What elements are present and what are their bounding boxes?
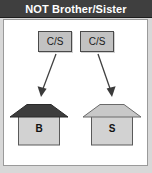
house-right-label: S: [104, 123, 120, 134]
cs-node-right: C/S: [80, 31, 114, 52]
arrow-right-shaft: [98, 54, 111, 90]
arrow-left-head: [38, 86, 47, 97]
cs-node-left: C/S: [38, 31, 72, 52]
arrow-right: [98, 54, 116, 97]
diagram-canvas: [0, 0, 152, 173]
arrow-right-head: [107, 86, 116, 97]
arrow-left: [38, 54, 56, 97]
diagram-figure: NOT Brother/Sister C/S C/: [0, 0, 152, 173]
house-left-roof: [10, 105, 68, 118]
house-right-roof: [83, 105, 141, 118]
house-left-label: B: [31, 123, 47, 134]
arrow-left-shaft: [43, 54, 57, 90]
